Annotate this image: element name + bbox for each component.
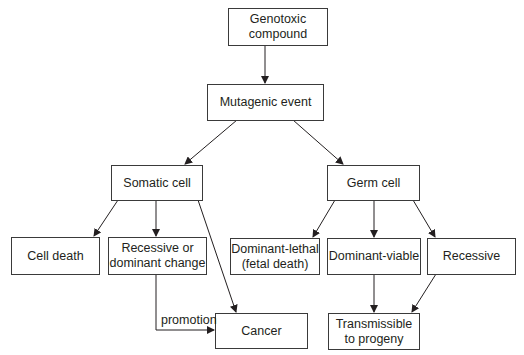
node-label: Germ cell (347, 176, 400, 191)
node-label-line2: to progeny (344, 332, 403, 347)
edge-recessive-transmissible (412, 274, 436, 312)
edges-layer (0, 0, 524, 355)
node-recessive-or-dominant-change: Recessive or dominant change (108, 237, 207, 275)
node-mutagenic-event: Mutagenic event (207, 84, 324, 121)
edge-somatic-celldeath (94, 200, 118, 236)
node-label-line1: Transmissible (336, 317, 413, 332)
edge-germ-lethal (313, 200, 335, 237)
edge-label-promotion: promotion (161, 313, 217, 327)
edge-mutagenic-germ (293, 120, 343, 164)
node-label-line2: dominant change (110, 256, 206, 271)
node-cancer: Cancer (215, 313, 308, 349)
node-label-line1: Recessive or (121, 241, 193, 256)
node-label: Dominant-viable (329, 249, 419, 264)
edge-mutagenic-somatic (185, 120, 237, 164)
node-transmissible-to-progeny: Transmissible to progeny (328, 313, 420, 350)
edge-germ-recessive (413, 200, 435, 237)
node-somatic-cell: Somatic cell (111, 165, 203, 201)
node-genotoxic-compound: Genotoxic compound (228, 8, 328, 46)
node-label: Recessive (443, 249, 501, 264)
node-label: Mutagenic event (220, 95, 312, 110)
node-dominant-lethal: Dominant-lethal (fetal death) (230, 238, 320, 275)
node-cell-death: Cell death (11, 237, 100, 275)
node-label-line1: Dominant-lethal (231, 242, 319, 257)
node-label: Somatic cell (123, 176, 190, 191)
node-label-line2: (fetal death) (242, 257, 309, 272)
node-germ-cell: Germ cell (327, 165, 420, 201)
node-label: Cell death (27, 249, 83, 264)
node-label: Cancer (241, 324, 281, 339)
node-recessive: Recessive (427, 238, 516, 275)
node-dominant-viable: Dominant-viable (327, 238, 421, 275)
node-label: Genotoxic compound (229, 12, 327, 42)
